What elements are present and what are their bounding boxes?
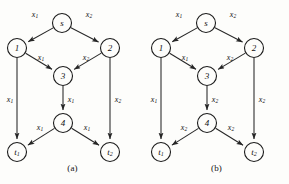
node-label-4: 4 <box>205 118 210 128</box>
figure-root: x1x2x1x2x1x1x2x1x1 s1234t1t2 (a) x1x2x1x… <box>0 0 289 184</box>
node-label-s: s <box>60 18 64 28</box>
node-label-2: 2 <box>108 43 113 53</box>
edge-s-to-1 <box>28 28 53 42</box>
node-label-s: s <box>204 18 208 28</box>
edge-label-2-3: x2 <box>82 53 90 62</box>
edge-label-1-3: x1 <box>37 53 45 62</box>
edge-label-3-4: x1 <box>67 95 75 104</box>
panel-caption-a: (a) <box>0 163 145 173</box>
edge-label-2-3: x2 <box>226 53 234 62</box>
edge-label-4-t1: x2 <box>180 123 188 132</box>
node-label-1: 1 <box>159 43 164 53</box>
edge-label-2-t2: x2 <box>114 95 122 104</box>
edge-label-s-2: x2 <box>229 10 237 19</box>
edge-label-4-t1: x1 <box>36 123 44 132</box>
node-label-4: 4 <box>61 118 66 128</box>
edge-label-1-t1: x1 <box>150 95 158 104</box>
node-label-3: 3 <box>60 71 66 81</box>
graph-svg-a: x1x2x1x2x1x1x2x1x1 s1234t1t2 <box>0 0 145 184</box>
edge-s-to-2 <box>71 28 99 42</box>
graph-svg-b: x1x2x1x2x1x2x2x2x2 s1234t1t2 <box>144 0 289 184</box>
edge-label-s-1: x1 <box>31 10 39 19</box>
edge-label-4-t2: x1 <box>83 123 91 132</box>
panel-caption-b: (b) <box>144 163 289 173</box>
edge-label-3-4: x2 <box>211 95 219 104</box>
edge-label-s-1: x1 <box>175 10 183 19</box>
edge-s-to-2 <box>215 28 243 42</box>
node-label-1: 1 <box>15 43 20 53</box>
edge-label-2-t2: x2 <box>258 95 266 104</box>
node-label-2: 2 <box>252 43 257 53</box>
node-label-3: 3 <box>204 71 210 81</box>
edge-label-4-t2: x2 <box>227 123 235 132</box>
edge-label-s-2: x2 <box>85 10 93 19</box>
diagram-panel-b: x1x2x1x2x1x2x2x2x2 s1234t1t2 (b) <box>144 0 289 184</box>
edge-label-1-t1: x1 <box>6 95 14 104</box>
edge-s-to-1 <box>172 28 197 42</box>
edge-label-1-3: x1 <box>181 53 189 62</box>
diagram-panel-a: x1x2x1x2x1x1x2x1x1 s1234t1t2 (a) <box>0 0 145 184</box>
